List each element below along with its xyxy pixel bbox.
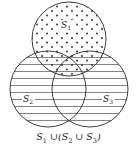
venn-diagram: S1 S2 S3: [0, 0, 137, 147]
caption-union: ∪: [72, 131, 86, 142]
caption-union-open: ∪(: [47, 131, 62, 142]
caption-close-paren: ): [97, 131, 101, 142]
diagram-caption: S1 ∪(S2 ∪ S3): [0, 131, 137, 145]
